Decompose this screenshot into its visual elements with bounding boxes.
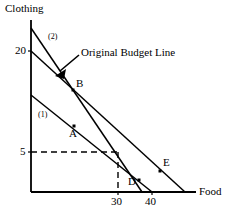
annotation-original-budget-line: Original Budget Line bbox=[81, 47, 175, 58]
point-label-e: E bbox=[163, 157, 170, 168]
point-label-d: D bbox=[128, 176, 136, 187]
series-line-original-budget bbox=[31, 51, 185, 192]
point-marker-b bbox=[72, 89, 75, 92]
annotation-arrow-line bbox=[60, 55, 79, 71]
x-axis-title: Food bbox=[199, 186, 222, 197]
curve-label-2: (2) bbox=[48, 33, 57, 41]
point-marker-e bbox=[159, 170, 162, 173]
budget-line-chart: Clothing Food 20 5 30 40 (2) (1) B A D E… bbox=[0, 0, 233, 218]
point-label-a: A bbox=[69, 128, 77, 139]
point-marker-d bbox=[138, 179, 141, 182]
x-tick-label-30: 30 bbox=[111, 196, 122, 207]
y-tick-label-5: 5 bbox=[20, 146, 26, 157]
y-tick-label-20: 20 bbox=[15, 45, 26, 56]
curve-label-1: (1) bbox=[38, 111, 47, 119]
x-tick-label-40: 40 bbox=[145, 196, 156, 207]
point-label-b: B bbox=[76, 78, 83, 89]
y-axis-title: Clothing bbox=[5, 3, 44, 14]
